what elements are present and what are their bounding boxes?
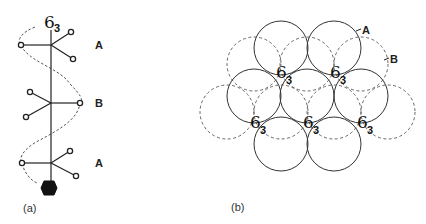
screw-axis-label: 63 bbox=[250, 112, 266, 136]
pointer-arrow-icon bbox=[356, 29, 361, 31]
bond-arm bbox=[30, 92, 51, 103]
layer-label-a: A bbox=[95, 157, 103, 169]
bond-arm bbox=[26, 103, 51, 117]
hexagon-symbol-icon bbox=[41, 181, 57, 195]
screw-axis-sub: 3 bbox=[286, 74, 292, 86]
atom-circle-icon bbox=[23, 114, 28, 119]
layer-label-a: A bbox=[95, 39, 103, 51]
panel-b-close-packing-diagram: 6363636363AB bbox=[200, 21, 415, 171]
screw-axis-sub: 3 bbox=[367, 124, 373, 136]
atom-circle-icon bbox=[18, 42, 23, 47]
screw-axis-sub: 3 bbox=[313, 124, 319, 136]
molecule-node-a bbox=[18, 29, 75, 61]
atom-circle-icon bbox=[67, 148, 72, 153]
screw-axis-sub: 3 bbox=[340, 74, 346, 86]
panel-a-caption: (a) bbox=[23, 202, 36, 214]
atom-circle-icon bbox=[77, 100, 82, 105]
helix-path-dashed bbox=[19, 27, 81, 183]
layer-label-b: B bbox=[95, 97, 103, 109]
atom-circle-icon bbox=[70, 56, 75, 61]
layer-label-b: B bbox=[390, 53, 398, 65]
molecule-node-b bbox=[23, 89, 82, 119]
screw-axis-label: 63 bbox=[357, 112, 373, 136]
panel-b-caption: (b) bbox=[231, 201, 244, 213]
bond-arm bbox=[51, 45, 73, 59]
pointer-arrow-icon bbox=[384, 58, 389, 60]
screw-axis-label-sub: 3 bbox=[54, 22, 60, 34]
atom-circle-icon bbox=[68, 29, 73, 34]
atom-circle-icon bbox=[27, 89, 32, 94]
molecule-node-a bbox=[19, 148, 78, 178]
bond-arm bbox=[51, 151, 70, 163]
screw-axis-sub: 3 bbox=[260, 124, 266, 136]
figure-canvas: ABA 6363636363AB 6 3 (a) (b) bbox=[0, 0, 426, 224]
panel-a-helix-diagram: ABA bbox=[18, 27, 103, 195]
atom-circle-icon bbox=[19, 160, 24, 165]
atom-circle-icon bbox=[73, 173, 78, 178]
bond-arm bbox=[51, 163, 76, 176]
layer-label-a: A bbox=[362, 24, 370, 36]
